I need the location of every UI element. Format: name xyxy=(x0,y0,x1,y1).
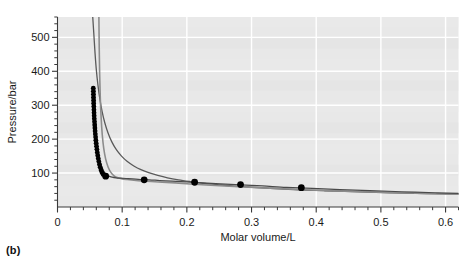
y-tick-label: 500 xyxy=(31,31,49,43)
data-point xyxy=(102,173,109,180)
plot-texture xyxy=(58,17,459,196)
x-tick-label: 0.3 xyxy=(244,216,259,228)
x-tick-label: 0.5 xyxy=(373,216,388,228)
data-point xyxy=(237,181,244,188)
x-tick-label: 0.6 xyxy=(438,216,453,228)
data-point xyxy=(141,176,148,183)
texture-band xyxy=(58,144,459,155)
y-axis-title: Pressure/bar xyxy=(6,80,18,143)
texture-band xyxy=(58,123,459,134)
texture-band xyxy=(58,80,459,91)
y-tick-label: 300 xyxy=(31,99,49,111)
x-tick-label: 0 xyxy=(54,216,60,228)
texture-band xyxy=(58,59,459,70)
x-axis-title: Molar volume/L xyxy=(220,231,295,243)
pressure-volume-chart: 10020030040050000.10.20.30.40.50.6Molar … xyxy=(0,0,469,266)
figure-panel: 10020030040050000.10.20.30.40.50.6Molar … xyxy=(0,0,469,266)
x-tick-label: 0.4 xyxy=(309,216,324,228)
data-point xyxy=(298,184,305,191)
data-point xyxy=(191,179,198,186)
texture-band xyxy=(58,17,459,28)
texture-band xyxy=(58,38,459,49)
y-tick-label: 200 xyxy=(31,133,49,145)
x-tick-label: 0.1 xyxy=(115,216,130,228)
panel-label: (b) xyxy=(6,244,21,256)
x-tick-label: 0.2 xyxy=(179,216,194,228)
texture-band xyxy=(58,101,459,112)
y-tick-label: 400 xyxy=(31,65,49,77)
y-tick-label: 100 xyxy=(31,167,49,179)
